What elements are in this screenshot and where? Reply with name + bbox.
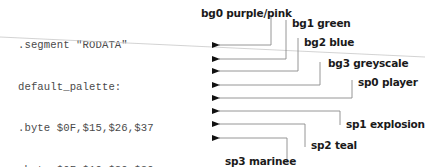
divider-line — [0, 37, 425, 57]
arrow-bg0 — [219, 15, 271, 45]
label-sp2: sp2 teal — [311, 139, 357, 151]
label-bg1: bg1 green — [292, 17, 351, 29]
arrow-sp1 — [219, 111, 340, 125]
label-bg0: bg0 purple/pink — [201, 7, 292, 19]
arrow-sp2 — [219, 124, 305, 147]
label-sp1: sp1 explosion — [346, 118, 425, 130]
label-bg3: bg3 greyscale — [328, 57, 408, 69]
label-bg2: bg2 blue — [304, 36, 354, 48]
arrow-sp0 — [219, 80, 352, 98]
label-sp3: sp3 marinee — [225, 155, 296, 167]
arrow-bg3 — [219, 62, 320, 85]
label-sp0: sp0 player — [358, 76, 418, 88]
arrow-bg1 — [219, 20, 286, 59]
